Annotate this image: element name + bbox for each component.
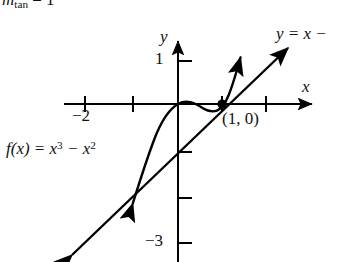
slope-annotation-m: m: [2, 0, 14, 9]
point-of-tangency-marker: [217, 99, 226, 108]
tangent-line: [72, 48, 288, 255]
function-label-lead: f(x) = x: [6, 139, 57, 158]
slope-annotation-sub: tan: [14, 0, 28, 10]
slope-annotation: mtan = 1: [2, 0, 55, 10]
y-axis-label: y: [160, 28, 168, 45]
function-label-exp2: 2: [90, 139, 96, 151]
y-tick-label--3: −3: [145, 232, 163, 249]
y-tick-label-1: 1: [155, 50, 164, 67]
x-tick-label--2: −2: [72, 107, 90, 124]
function-label-exp1: 3: [57, 139, 63, 151]
tangent-line-label: y = x −: [276, 25, 327, 42]
point-label: (1, 0): [222, 110, 259, 127]
function-label-mid: − x: [67, 139, 90, 158]
tangent-line-figure: mtan = 1 y = x − f(x) = x3 − x2 (1, 0) x…: [0, 0, 356, 262]
slope-annotation-value: = 1: [32, 0, 54, 9]
x-axis-label: x: [302, 78, 310, 95]
function-label: f(x) = x3 − x2: [6, 140, 96, 157]
